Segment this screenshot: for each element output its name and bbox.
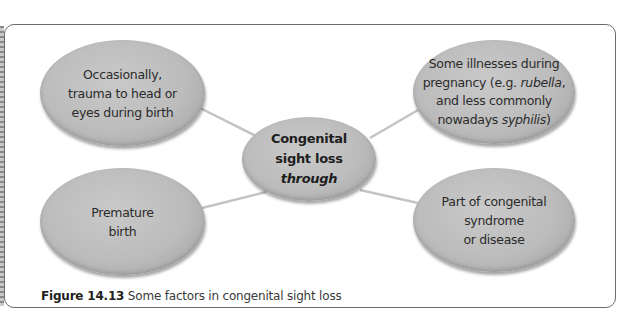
node-center-congenital-sight-loss: Congenital sight loss through: [242, 117, 376, 201]
italic-term-rubella: rubella: [520, 75, 561, 90]
text-fragment: nowadays: [437, 112, 501, 127]
node-text-line: Some illnesses during: [423, 55, 566, 74]
text-fragment: ): [546, 112, 551, 127]
node-text-line: eyes during birth: [68, 103, 177, 122]
connector-bottom-right: [360, 190, 418, 203]
connector-bottom-left: [202, 192, 266, 208]
node-text-line: Premature: [91, 203, 153, 222]
italic-term-syphilis: syphilis: [502, 112, 546, 127]
text-fragment: ,: [562, 75, 566, 90]
node-birth-trauma: Occasionally, trauma to head or eyes dur…: [40, 40, 205, 146]
center-node-text: Congenital sight loss through: [271, 129, 347, 189]
node-premature-birth-text: Premature birth: [91, 203, 153, 241]
center-text-italic-line: through: [271, 169, 347, 189]
node-text-line: or disease: [442, 230, 547, 249]
connector-top-right: [370, 110, 418, 138]
node-text-line: pregnancy (e.g. rubella,: [423, 74, 566, 93]
node-text-line: trauma to head or: [68, 84, 177, 103]
node-congenital-syndrome: Part of congenital syndrome or disease: [413, 168, 575, 272]
node-text-line: nowadays syphilis): [423, 111, 566, 130]
node-pregnancy-illnesses: Some illnesses during pregnancy (e.g. ru…: [413, 40, 575, 144]
node-birth-trauma-text: Occasionally, trauma to head or eyes dur…: [68, 65, 177, 122]
node-text-line: Occasionally,: [68, 65, 177, 84]
center-text-line: Congenital: [271, 129, 347, 149]
node-text-line: and less commonly: [423, 92, 566, 111]
node-premature-birth: Premature birth: [40, 168, 205, 275]
node-congenital-syndrome-text: Part of congenital syndrome or disease: [442, 192, 547, 249]
figure-number: Figure 14.13: [41, 289, 124, 303]
node-text-line: syndrome: [442, 211, 547, 230]
node-text-line: Part of congenital: [442, 192, 547, 211]
text-fragment: pregnancy (e.g.: [423, 75, 521, 90]
caption-text: Some factors in congenital sight loss: [124, 289, 341, 303]
figure-caption: Figure 14.13 Some factors in congenital …: [41, 289, 342, 303]
node-pregnancy-illnesses-text: Some illnesses during pregnancy (e.g. ru…: [423, 55, 566, 129]
node-text-line: birth: [91, 222, 153, 241]
connector-top-left: [200, 108, 258, 137]
center-text-line: sight loss: [271, 149, 347, 169]
